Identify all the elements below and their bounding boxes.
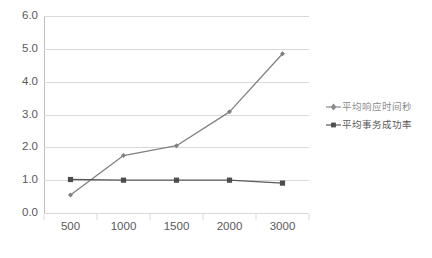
data-point-marker: [280, 181, 285, 186]
square-line-marker-icon: [326, 119, 341, 131]
x-axis-tick-label: 1000: [111, 221, 137, 233]
x-axis-tick-mark: [309, 214, 310, 220]
plot-area: [44, 16, 309, 213]
line-chart: 0.01.02.03.04.05.06.0 500100015002000300…: [0, 0, 432, 258]
diamond-line-marker-icon: [326, 101, 341, 113]
y-axis-tick-label: 4.0: [22, 76, 38, 88]
data-point-marker: [174, 178, 179, 183]
y-axis-tick-label: 1.0: [22, 174, 38, 186]
x-axis-tick-label: 500: [61, 221, 80, 233]
y-axis-tick-label: 6.0: [22, 10, 38, 22]
x-axis-tick-label: 3000: [270, 221, 296, 233]
x-axis-tick-labels: 5001000150020003000: [44, 221, 309, 237]
y-axis-tick-label: 3.0: [22, 109, 38, 121]
legend-label-response-time: 平均响应时间秒: [342, 102, 412, 112]
x-axis-tick-label: 1500: [164, 221, 190, 233]
y-axis-tick-labels: 0.01.02.03.04.05.06.0: [0, 16, 38, 213]
y-axis-tick-label: 0.0: [22, 207, 38, 219]
y-axis-tick-label: 5.0: [22, 43, 38, 55]
chart-legend: 平均响应时间秒 平均事务成功率: [326, 98, 430, 134]
legend-label-success-rate: 平均事务成功率: [342, 120, 412, 130]
data-point-marker: [227, 178, 232, 183]
series-line: [71, 54, 283, 195]
data-point-marker: [121, 178, 126, 183]
x-axis-tick-label: 2000: [217, 221, 243, 233]
x-axis-tick-mark: [97, 214, 98, 220]
x-axis-tick-mark: [256, 214, 257, 220]
x-axis-tick-mark: [203, 214, 204, 220]
x-axis-tick-mark: [150, 214, 151, 220]
legend-item-response-time[interactable]: 平均响应时间秒: [326, 98, 430, 116]
data-point-marker: [68, 177, 73, 182]
series-layer: [44, 16, 309, 213]
y-axis-tick-label: 2.0: [22, 142, 38, 154]
x-axis-tick-mark: [44, 214, 45, 220]
legend-item-success-rate[interactable]: 平均事务成功率: [326, 116, 430, 134]
